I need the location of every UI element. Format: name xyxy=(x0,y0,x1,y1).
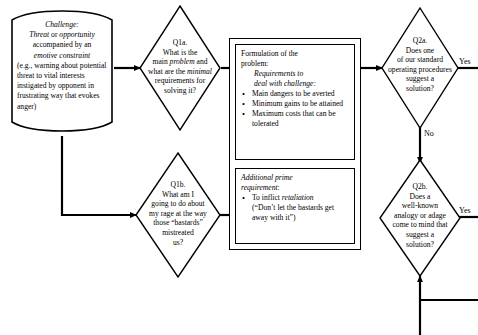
edge-label-q2b-yes: Yes xyxy=(459,206,471,215)
q2b-line5: suggest a xyxy=(370,230,470,240)
q2a-line5: solution? xyxy=(371,84,469,94)
additional-requirement-box: Additional prime requirement: To inflict… xyxy=(235,168,355,244)
q1b-tag: Q1b. xyxy=(131,180,225,190)
q2b-line1: Does a xyxy=(370,192,470,202)
formulation-sub-line1: Requirements to xyxy=(241,69,349,79)
challenge-line1-c: opportunity xyxy=(59,30,94,39)
q2a-line1: Does one xyxy=(371,46,469,56)
q1a-line2-b: and xyxy=(195,57,208,66)
q1a-line3: what are the minimal xyxy=(133,67,227,77)
formulation-title-line2: problem: xyxy=(241,59,349,69)
additional-title-colon: : xyxy=(278,183,280,192)
q2a-line4: suggest a xyxy=(371,74,469,84)
challenge-heading-colon: : xyxy=(76,20,79,29)
q1a-line2: main problem and xyxy=(133,57,227,67)
q2a-line3: operating procedures xyxy=(371,65,469,75)
challenge-line1-b: or xyxy=(49,30,59,39)
additional-bullet-list: To inflict retaliation(“Don’t let the ba… xyxy=(241,193,349,223)
additional-title-line1: Additional prime xyxy=(241,173,349,183)
formulation-bullet: Minimum gains to be attained xyxy=(241,99,349,109)
edge-label-q2a-no: No xyxy=(424,129,434,138)
q2b-line3: analogy or adage xyxy=(370,211,470,221)
q2b-line6: solution? xyxy=(370,240,470,250)
edge-challenge-to-q1b xyxy=(62,136,136,215)
q2b-tag: Q2b. xyxy=(370,182,470,192)
challenge-body: (e.g., warning about potential threat to… xyxy=(17,61,107,112)
flowchart-canvas: Challenge: Threat or opportunity accompa… xyxy=(0,0,478,335)
q1a-tag: Q1a. xyxy=(133,38,227,48)
q1a-line2-em: problem xyxy=(170,57,195,66)
q1a-line3-em: minimal xyxy=(187,67,212,76)
challenge-line2: accompanied by an xyxy=(17,40,107,50)
q1a-line4: requirements for xyxy=(133,76,227,86)
challenge-heading: Challenge xyxy=(45,20,76,29)
q1b-line3: my rage at the way xyxy=(131,209,225,219)
q1b-line1: What am I xyxy=(131,190,225,200)
additional-bullet-pre: To inflict xyxy=(252,193,282,202)
challenge-node-text: Challenge: Threat or opportunity accompa… xyxy=(14,20,110,124)
formulation-box: Formulation of the problem: Requirements… xyxy=(235,44,355,160)
q1a-line5: solving it? xyxy=(133,86,227,96)
q1a-label: Q1a. What is the main problem and what a… xyxy=(133,38,227,96)
additional-bullet: To inflict retaliation(“Don’t let the ba… xyxy=(241,193,349,223)
q1a-line2-a: main xyxy=(153,57,170,66)
q2b-label: Q2b. Does a well-known analogy or adage … xyxy=(370,182,470,249)
q2b-line4: come to mind that xyxy=(370,220,470,230)
q2a-label: Q2a. Does one of our standard operating … xyxy=(371,36,469,94)
q1b-line5: mistreated xyxy=(131,228,225,238)
q2a-line2: of our standard xyxy=(371,55,469,65)
challenge-line3: emotive constraint xyxy=(17,51,107,61)
q1a-line1: What is the xyxy=(133,48,227,58)
q1b-line4: those “bastards” xyxy=(131,218,225,228)
challenge-line1-a: Threat xyxy=(29,30,49,39)
additional-bullet-post: (“Don’t let the bastards get away with i… xyxy=(252,203,334,222)
q1b-line2: going to do about xyxy=(131,199,225,209)
formulation-bullet: Maximum costs that can be tolerated xyxy=(241,109,349,129)
formulation-bullet: Main dangers to be averted xyxy=(241,89,349,99)
edge-label-q2a-yes: Yes xyxy=(459,57,471,66)
q2b-line2: well-known xyxy=(370,201,470,211)
formulation-bullet-list: Main dangers to be averted Minimum gains… xyxy=(241,89,349,129)
additional-bullet-em: retaliation xyxy=(282,193,314,202)
formulation-title-line1: Formulation of the xyxy=(241,49,349,59)
formulation-sub-line2: deal with challenge: xyxy=(241,79,349,89)
q1b-label: Q1b. What am I going to do about my rage… xyxy=(131,180,225,247)
q1b-line6: us? xyxy=(131,238,225,248)
additional-title-line2: requirement xyxy=(241,183,278,192)
q1a-line3-a: what are the xyxy=(148,67,187,76)
q2a-tag: Q2a. xyxy=(371,36,469,46)
